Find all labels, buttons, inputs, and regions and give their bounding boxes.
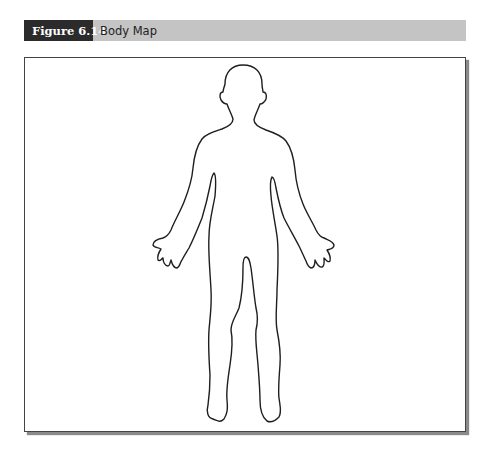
human-body-outline (153, 65, 334, 422)
body-map-diagram (0, 0, 493, 452)
